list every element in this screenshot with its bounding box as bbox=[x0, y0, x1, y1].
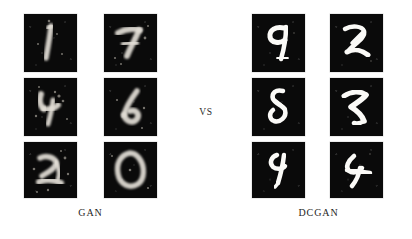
sample-tile-gan-6 bbox=[104, 142, 157, 198]
sample-tile-dcgan-3 bbox=[252, 78, 305, 136]
sample-tile-dcgan-5 bbox=[252, 142, 305, 198]
sample-grid-gan bbox=[24, 14, 157, 198]
sample-tile-gan-1 bbox=[24, 14, 77, 72]
gan-vs-dcgan-figure: VS bbox=[0, 0, 412, 239]
sample-tile-gan-2 bbox=[104, 14, 157, 72]
caption-dcgan: DCGAN bbox=[252, 207, 385, 218]
sample-grid-dcgan bbox=[252, 14, 383, 198]
caption-gan: GAN bbox=[24, 207, 157, 218]
sample-tile-dcgan-1 bbox=[252, 14, 305, 72]
sample-tile-dcgan-2 bbox=[330, 14, 383, 72]
sample-tile-dcgan-6 bbox=[330, 142, 383, 198]
sample-tile-dcgan-4 bbox=[330, 78, 383, 136]
sample-tile-gan-5 bbox=[24, 142, 77, 198]
